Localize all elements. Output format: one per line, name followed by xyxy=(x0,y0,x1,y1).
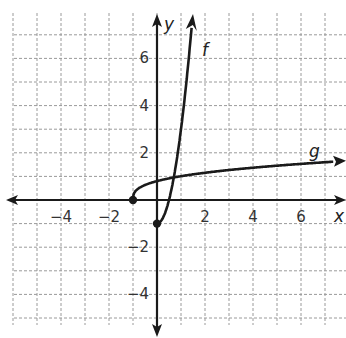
x-tick-label: −2 xyxy=(98,208,120,226)
y-tick-label: 2 xyxy=(139,144,149,162)
y-tick-label: 6 xyxy=(139,49,149,67)
f-start-point xyxy=(153,219,161,227)
y-tick-label: −4 xyxy=(127,285,149,303)
x-tick-label: −4 xyxy=(50,208,72,226)
grid-lines xyxy=(13,13,346,325)
f-label: f xyxy=(202,40,211,60)
y-axis-label: y xyxy=(163,14,175,34)
y-tick-label: 4 xyxy=(139,97,149,115)
function-curves xyxy=(129,14,346,228)
g-arrow-icon xyxy=(333,156,346,167)
f-curve xyxy=(157,28,192,224)
coordinate-plane: −4−2246642−2−4 x y f g xyxy=(0,0,346,338)
axes xyxy=(6,14,346,337)
x-axis-label: x xyxy=(333,206,345,226)
g-label: g xyxy=(309,141,320,161)
g-curve xyxy=(133,162,333,200)
y-tick-label: −2 xyxy=(127,238,149,256)
g-start-point xyxy=(129,196,137,204)
x-tick-label: 2 xyxy=(200,208,210,226)
x-tick-label: 4 xyxy=(248,208,258,226)
x-tick-label: 6 xyxy=(296,208,306,226)
